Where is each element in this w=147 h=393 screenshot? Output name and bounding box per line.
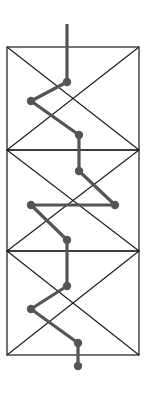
path-node-1 [63,78,71,86]
path-node-9 [27,305,35,313]
path-nodes [27,78,119,370]
path-node-6 [27,201,35,209]
path-node-8 [63,282,71,290]
path-node-10 [74,339,82,347]
path-node-4 [75,167,83,175]
path-node-3 [75,131,83,139]
path-node-7 [63,236,71,244]
path-node-11 [74,362,82,370]
braced-frame [7,47,139,355]
zigzag-frame-diagram [0,0,147,393]
path-node-5 [111,201,119,209]
path-node-2 [27,97,35,105]
